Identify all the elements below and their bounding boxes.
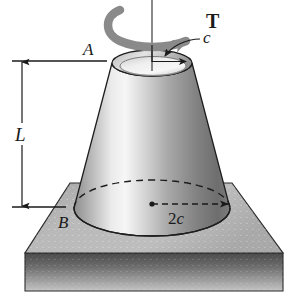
cone-lateral-surface	[74, 63, 230, 236]
torque-curved-arrow	[108, 10, 186, 47]
section-label-a: A	[82, 40, 94, 59]
torsion-figure: T c 2c L A	[0, 0, 290, 297]
length-label: L	[14, 124, 26, 145]
plate-front-texture	[25, 253, 283, 291]
figure-canvas: T c 2c L A	[0, 0, 290, 297]
top-radius-label: c	[203, 28, 211, 47]
base-diameter-number: 2	[168, 209, 177, 228]
base-diameter-label: 2c	[168, 209, 185, 228]
base-diameter-symbol: c	[177, 209, 185, 228]
section-label-b: B	[58, 213, 69, 232]
tapered-shaft-cone	[74, 50, 230, 236]
